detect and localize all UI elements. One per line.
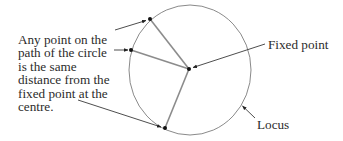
points	[129, 17, 191, 130]
radius-line-left	[131, 50, 189, 69]
fixed-point-label: Fixed point	[268, 37, 329, 52]
circle-point-bottom	[163, 126, 167, 130]
locus-label: Locus	[257, 117, 289, 132]
radius-line-top	[150, 19, 189, 69]
centre-point	[187, 67, 191, 71]
circle-point-top	[148, 17, 152, 21]
radius-lines	[131, 19, 189, 128]
arrow-to-bottom-point	[78, 100, 161, 127]
circle-point-left	[129, 48, 133, 52]
description-text: Any point on the path of the circle is t…	[18, 32, 113, 115]
radius-line-bottom	[165, 69, 189, 128]
arrow-to-top-point	[115, 21, 146, 31]
locus-diagram: Any point on the path of the circle is t…	[0, 0, 343, 141]
arrow-to-locus	[243, 106, 256, 118]
arrow-to-fixed-point	[193, 44, 265, 68]
description-line-6: centre.	[18, 99, 54, 114]
